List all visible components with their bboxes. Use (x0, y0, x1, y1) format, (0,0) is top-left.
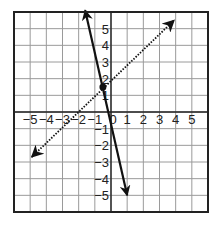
x-tick-label: −4 (39, 112, 54, 127)
x-tick-label: 5 (188, 112, 195, 127)
y-tick-label: 5 (102, 22, 109, 37)
x-tick-label: 3 (156, 112, 163, 127)
coordinate-graph: −5−4−3−2−101234554321−1−2−3−4−5 (0, 0, 218, 228)
x-tick-label: −3 (55, 112, 70, 127)
x-tick-label: 1 (124, 112, 131, 127)
x-tick-label: −5 (23, 112, 38, 127)
x-tick-label: 4 (172, 112, 179, 127)
y-tick-label: −5 (94, 188, 109, 203)
y-tick-label: −2 (94, 138, 109, 153)
x-tick-label: 2 (140, 112, 147, 127)
y-tick-label: −4 (94, 172, 109, 187)
x-tick-label: −2 (71, 112, 86, 127)
points (99, 84, 106, 91)
intersection-point (99, 84, 106, 91)
y-tick-label: 4 (102, 38, 109, 53)
y-tick-label: −3 (94, 155, 109, 170)
y-tick-label: −1 (94, 122, 109, 137)
y-tick-label: 3 (102, 55, 109, 70)
